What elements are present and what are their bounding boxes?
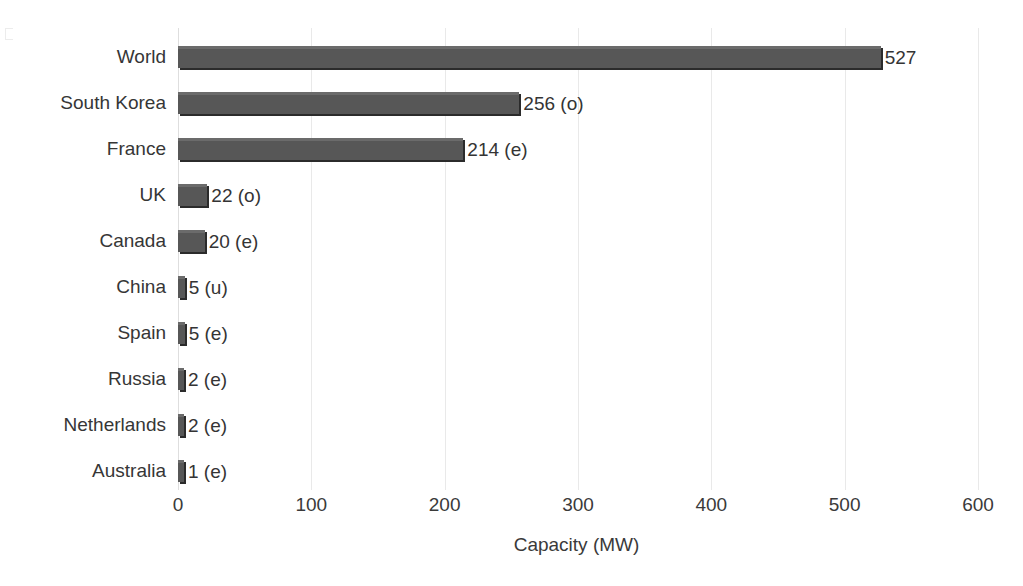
bar-chart: World527South Korea256 (o)France214 (e)U… bbox=[0, 0, 1023, 586]
plot-area: World527South Korea256 (o)France214 (e)U… bbox=[178, 28, 978, 490]
bar-value-label: 214 (e) bbox=[467, 140, 527, 159]
category-label-text: China bbox=[116, 276, 166, 298]
bar-holder: 527 bbox=[178, 34, 916, 80]
bar-row: Canada20 (e) bbox=[178, 218, 978, 264]
bar bbox=[178, 460, 184, 482]
bar-value-label: 1 (e) bbox=[188, 462, 227, 481]
x-tick-label: 200 bbox=[429, 494, 461, 516]
bar-holder: 1 (e) bbox=[178, 448, 227, 494]
category-label-text: Netherlands bbox=[64, 414, 166, 436]
category-label-text: UK bbox=[140, 184, 166, 206]
category-label: Australia bbox=[0, 448, 166, 494]
x-axis-ticks: 0100200300400500600 bbox=[178, 494, 978, 524]
bar bbox=[178, 92, 519, 114]
bar-holder: 2 (e) bbox=[178, 356, 227, 402]
category-label: World bbox=[0, 34, 166, 80]
bar-value-label: 256 (o) bbox=[523, 94, 583, 113]
bar bbox=[178, 276, 185, 298]
category-label: South Korea bbox=[0, 80, 166, 126]
bar-row: China5 (u) bbox=[178, 264, 978, 310]
x-tick-label: 600 bbox=[962, 494, 994, 516]
x-tick-label: 100 bbox=[295, 494, 327, 516]
bar bbox=[178, 414, 184, 436]
category-label-text: South Korea bbox=[60, 92, 166, 114]
category-label: Canada bbox=[0, 218, 166, 264]
bar-holder: 5 (e) bbox=[178, 310, 228, 356]
bar bbox=[178, 368, 184, 390]
category-label-text: France bbox=[107, 138, 166, 160]
category-label: Netherlands bbox=[0, 402, 166, 448]
category-label-text: Canada bbox=[99, 230, 166, 252]
category-label: Russia bbox=[0, 356, 166, 402]
bar-value-label: 5 (u) bbox=[189, 278, 228, 297]
bar-holder: 214 (e) bbox=[178, 126, 528, 172]
bar-value-label: 5 (e) bbox=[189, 324, 228, 343]
bar-row: Russia2 (e) bbox=[178, 356, 978, 402]
bar bbox=[178, 184, 207, 206]
bar-holder: 256 (o) bbox=[178, 80, 584, 126]
bar bbox=[178, 46, 881, 68]
bar-value-label: 20 (e) bbox=[209, 232, 259, 251]
category-label: France bbox=[0, 126, 166, 172]
bar-row: UK22 (o) bbox=[178, 172, 978, 218]
bar-row: World527 bbox=[178, 34, 978, 80]
bar bbox=[178, 230, 205, 252]
x-tick-label: 500 bbox=[829, 494, 861, 516]
x-tick-label: 400 bbox=[695, 494, 727, 516]
bar-rows: World527South Korea256 (o)France214 (e)U… bbox=[178, 28, 978, 490]
bar-row: Australia1 (e) bbox=[178, 448, 978, 494]
category-label-text: World bbox=[117, 46, 166, 68]
bar-row: South Korea256 (o) bbox=[178, 80, 978, 126]
gridline-600 bbox=[978, 28, 979, 490]
x-tick-label: 0 bbox=[173, 494, 184, 516]
category-label: UK bbox=[0, 172, 166, 218]
x-tick-label: 300 bbox=[562, 494, 594, 516]
category-label-text: Spain bbox=[117, 322, 166, 344]
bar-value-label: 22 (o) bbox=[211, 186, 261, 205]
category-label-text: Australia bbox=[92, 460, 166, 482]
bar-row: Netherlands2 (e) bbox=[178, 402, 978, 448]
category-label-text: Russia bbox=[108, 368, 166, 390]
bar-holder: 5 (u) bbox=[178, 264, 228, 310]
bar-holder: 22 (o) bbox=[178, 172, 261, 218]
bar-row: France214 (e) bbox=[178, 126, 978, 172]
bar bbox=[178, 322, 185, 344]
bar-holder: 2 (e) bbox=[178, 402, 227, 448]
category-label: Spain bbox=[0, 310, 166, 356]
bar-holder: 20 (e) bbox=[178, 218, 258, 264]
bar bbox=[178, 138, 463, 160]
bar-value-label: 2 (e) bbox=[188, 416, 227, 435]
bar-value-label: 2 (e) bbox=[188, 370, 227, 389]
category-label: China bbox=[0, 264, 166, 310]
x-axis-title: Capacity (MW) bbox=[0, 534, 1023, 556]
x-axis-title-text: Capacity (MW) bbox=[384, 534, 640, 556]
bar-row: Spain5 (e) bbox=[178, 310, 978, 356]
bar-value-label: 527 bbox=[885, 48, 917, 67]
